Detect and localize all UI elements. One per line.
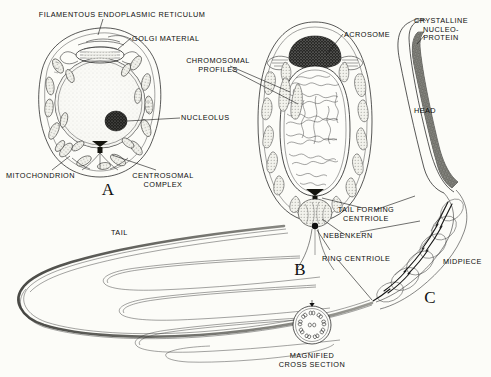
label-chromosomal-profiles: CHROMOSOMAL PROFILES [186, 57, 250, 74]
label-centrosomal-complex: CENTROSOMAL COMPLEX [132, 172, 193, 189]
label-nebenkern: NEBENKERN [323, 232, 372, 241]
label-midpiece: MIDPIECE [443, 258, 482, 267]
label-mitochondrion: MITOCHONDRION [6, 172, 75, 181]
leader-fer [98, 19, 103, 35]
cross-section-shape [293, 300, 331, 344]
figure-canvas: FILAMENTOUS ENDOPLASMIC RETICULUM GOLGI … [0, 0, 491, 377]
label-crystalline-nucleoprotein: CRYSTALLINE NUCLEO- PROTEIN [414, 17, 468, 43]
acrosome-shape [267, 36, 363, 70]
panel-letter-a: A [102, 180, 114, 200]
panel-letter-b: B [294, 260, 305, 280]
label-filamentous-endoplasmic-reticulum: FILAMENTOUS ENDOPLASMIC RETICULUM [39, 11, 205, 20]
label-acrosome: ACROSOME [344, 31, 390, 40]
panel-letter-c: C [424, 288, 435, 308]
label-golgi-material: GOLGI MATERIAL [132, 35, 199, 44]
label-head: HEAD [414, 107, 436, 116]
label-magnified-cross-section: MAGNIFIED CROSS SECTION [279, 352, 345, 369]
label-tail: TAIL [111, 229, 128, 238]
ring-centriole-dot [312, 223, 318, 229]
label-nucleolus: NUCLEOLUS [181, 114, 230, 123]
label-ring-centriole: RING CENTRIOLE [322, 255, 390, 264]
label-tail-forming-centriole: TAIL FORMING CENTRIOLE [338, 206, 394, 223]
